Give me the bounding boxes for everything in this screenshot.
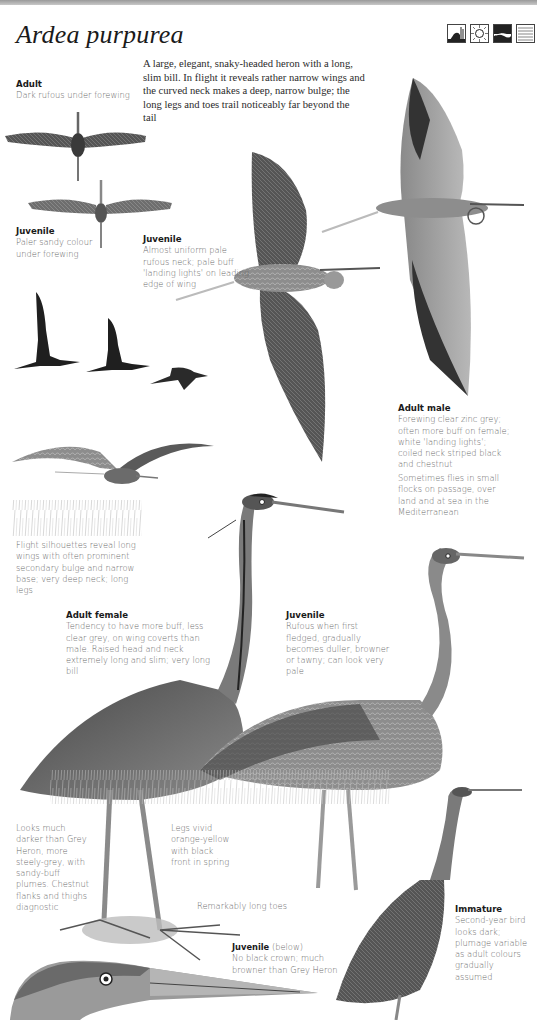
caption-adult-male: Adult male Forewing clear zinc grey; oft… — [398, 403, 510, 471]
caption-heading-suffix: (below) — [269, 942, 303, 952]
gliding-heron — [12, 444, 214, 484]
caption-juvenile-standing: Juvenile Rufous when first fledged, grad… — [286, 610, 391, 678]
caption-text: Tendency to have more buff, less clear g… — [66, 621, 210, 676]
caption-heading: Juvenile — [286, 610, 391, 621]
caption-toes: Remarkably long toes — [197, 901, 297, 912]
adult-male-upperwing-flight — [322, 78, 524, 396]
caption-silhouettes: Flight silhouettes reveal long wings wit… — [16, 540, 136, 596]
caption-text: Dark rufous under forewing — [16, 90, 130, 100]
caption-text: Forewing clear zinc grey; often more buf… — [398, 414, 509, 469]
flight-silhouettes — [14, 292, 208, 390]
caption-heading: Juvenile — [232, 942, 269, 952]
caption-text: Rufous when first fledged, gradually bec… — [286, 621, 389, 676]
caption-text: Sometimes flies in small flocks on passa… — [398, 473, 499, 517]
caption-heading: Juvenile — [16, 226, 106, 237]
caption-heading: Juvenile — [143, 234, 253, 245]
juvenile-upperwing-flight — [176, 152, 380, 462]
feet-detail — [60, 916, 240, 960]
caption-text: No black crown; much browner than Grey H… — [232, 953, 337, 974]
caption-juvenile-flight: Juvenile Almost uniform pale rufous neck… — [143, 234, 253, 290]
caption-darker: Looks much darker than Grey Heron, more … — [16, 823, 90, 913]
reed-sketch — [12, 500, 142, 536]
caption-juvenile-head: Juvenile (below) No black crown; much br… — [232, 942, 344, 976]
caption-text: Flight silhouettes reveal long wings wit… — [16, 540, 136, 595]
caption-text: Almost uniform pale rufous neck; pale bu… — [143, 245, 249, 289]
caption-adult-female: Adult female Tendency to have more buff,… — [66, 610, 211, 678]
adult-underwing-flight — [5, 112, 146, 181]
caption-text: Second-year bird looks dark; plumage var… — [455, 915, 527, 981]
caption-text: Remarkably long toes — [197, 901, 287, 911]
caption-text: Looks much darker than Grey Heron, more … — [16, 823, 89, 912]
caption-juvenile-underwing: Juvenile Paler sandy colour under forewi… — [16, 226, 106, 260]
caption-text: Paler sandy colour under forewing — [16, 237, 92, 258]
caption-text: Legs vivid orange-yellow with black fron… — [171, 823, 229, 867]
caption-heading: Adult female — [66, 610, 211, 621]
caption-heading: Adult male — [398, 403, 510, 414]
caption-heading: Adult — [16, 79, 136, 90]
caption-heading: Immature — [455, 904, 531, 915]
caption-adult-flight: Adult Dark rufous under forewing — [16, 79, 136, 102]
caption-legs: Legs vivid orange-yellow with black fron… — [171, 823, 235, 868]
caption-immature: Immature Second-year bird looks dark; pl… — [455, 904, 531, 983]
caption-flocks: Sometimes flies in small flocks on passa… — [398, 473, 510, 518]
